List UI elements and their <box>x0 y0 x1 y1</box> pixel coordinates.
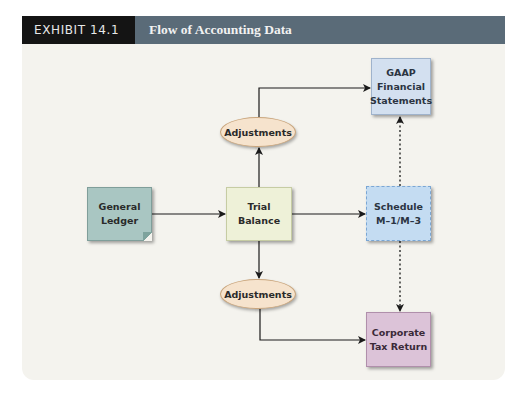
node-general-ledger: General Ledger <box>87 187 152 241</box>
node-schedule-m1-m3: Schedule M–1/M–3 <box>366 186 431 241</box>
node-label: General Ledger <box>99 200 141 228</box>
node-label: Adjustments <box>224 289 292 300</box>
node-label: Adjustments <box>224 127 292 138</box>
node-adjustments-top: Adjustments <box>220 117 296 147</box>
node-label: GAAP Financial Statements <box>370 66 432 108</box>
node-trial-balance: Trial Balance <box>226 187 292 241</box>
node-label: Trial Balance <box>238 200 280 228</box>
arrow-adjustments-to-corp <box>260 309 365 340</box>
arrow-adjustments-to-gaap <box>259 88 370 117</box>
node-label: Schedule M–1/M–3 <box>374 200 423 228</box>
node-gaap-financial-statements: GAAP Financial Statements <box>371 58 431 115</box>
node-adjustments-bottom: Adjustments <box>220 279 296 309</box>
node-label: Corporate Tax Return <box>370 326 428 354</box>
node-corporate-tax-return: Corporate Tax Return <box>366 312 431 367</box>
